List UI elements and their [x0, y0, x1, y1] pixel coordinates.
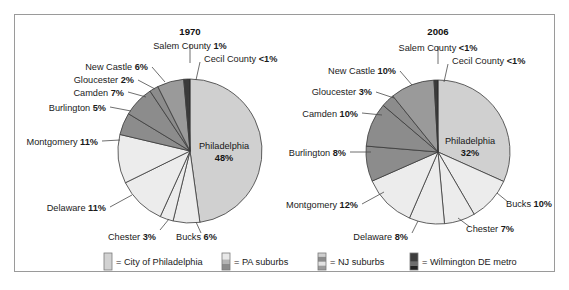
label-delaware-2006: Delaware 8%	[353, 232, 408, 242]
chart-legend: = City of Philadelphia= PA suburbs= NJ s…	[104, 253, 517, 270]
label-salem-1970: Salem County 1%	[153, 41, 227, 51]
wilmington-swatch	[410, 253, 418, 270]
label-philadelphia-2006-pct: 32%	[461, 148, 479, 158]
legend-label-pa-suburbs: = PA suburbs	[234, 257, 289, 267]
legend-label-nj-suburbs: = NJ suburbs	[330, 257, 385, 267]
label-camden-2006: Camden 10%	[302, 109, 358, 119]
city-swatch	[104, 253, 112, 270]
label-salem-2006: Salem County <1%	[399, 43, 478, 53]
label-bucks-2006: Bucks 10%	[506, 199, 552, 209]
label-chester-2006: Chester 7%	[466, 224, 514, 234]
legend-label-wilmington: = Wilmington DE metro	[422, 257, 517, 267]
chart-2006: 2006 Salem County <1% Cecil County <1% N…	[286, 26, 552, 242]
label-gloucester-2006: Gloucester 3%	[312, 87, 372, 97]
nj-suburbs-swatch	[318, 253, 326, 270]
legend-label-city: = City of Philadelphia	[116, 257, 203, 267]
label-burlington-1970: Burlington 5%	[49, 103, 106, 113]
label-philadelphia-1970-name: Philadelphia	[199, 141, 250, 151]
label-gloucester-1970: Gloucester 2%	[74, 75, 134, 85]
label-montgomery-2006: Montgomery 12%	[286, 200, 358, 210]
label-cecil-2006: Cecil County <1%	[452, 56, 525, 66]
label-cecil-1970: Cecil County <1%	[204, 54, 277, 64]
label-burlington-2006: Burlington 8%	[289, 148, 346, 158]
pie-2006-slices	[366, 80, 510, 224]
label-montgomery-1970: Montgomery 11%	[26, 137, 98, 147]
chart-1970: 1970 Salem County 1% Cecil County <1% Ne…	[26, 26, 277, 242]
pie-chart-figure: 1970 Salem County 1% Cecil County <1% Ne…	[0, 0, 569, 290]
label-newcastle-2006: New Castle 10%	[328, 66, 396, 76]
label-delaware-1970: Delaware 11%	[47, 203, 106, 213]
label-bucks-1970: Bucks 6%	[176, 232, 217, 242]
label-camden-1970: Camden 7%	[73, 88, 124, 98]
chart-1970-title: 1970	[179, 26, 200, 37]
pa-suburbs-swatch	[222, 253, 230, 270]
label-chester-1970: Chester 3%	[108, 232, 156, 242]
label-newcastle-1970: New Castle 6%	[85, 62, 148, 72]
label-philadelphia-1970-pct: 48%	[215, 153, 233, 163]
label-philadelphia-2006-name: Philadelphia	[445, 136, 496, 146]
chart-2006-title: 2006	[427, 26, 448, 37]
